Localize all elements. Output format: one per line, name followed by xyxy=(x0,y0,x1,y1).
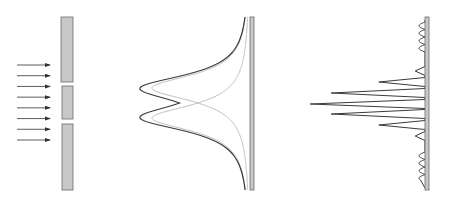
summed-intensity-curve xyxy=(140,17,245,190)
diffraction-diagram xyxy=(0,0,449,200)
double-slit-barrier xyxy=(61,17,73,190)
screen-1 xyxy=(250,17,254,190)
diffraction-panel xyxy=(140,17,254,190)
screen-2 xyxy=(425,17,429,190)
incident-wave-arrows xyxy=(17,65,50,140)
interference-fringe-curve xyxy=(310,20,425,188)
barrier-bottom xyxy=(62,124,73,190)
barrier-top xyxy=(61,17,73,82)
single-slit-envelope-top xyxy=(152,17,248,190)
barrier-middle xyxy=(62,86,73,119)
interference-panel xyxy=(310,17,429,190)
